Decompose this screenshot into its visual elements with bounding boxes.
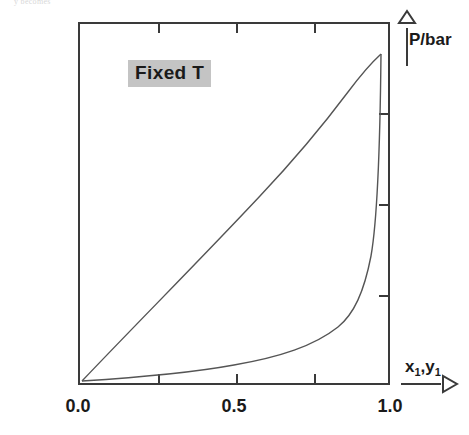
bubble-point-curve bbox=[82, 54, 381, 381]
x-tick-label-1: 0.5 bbox=[221, 396, 246, 417]
scan-artifact-text: y becomes bbox=[14, 0, 51, 6]
pxy-phase-diagram-figure: y becomes Fixed T 0.0 0.5 1.0 P/bar x1, bbox=[0, 0, 469, 435]
plot-frame bbox=[78, 22, 390, 385]
x-axis-arrow-icon bbox=[399, 373, 461, 397]
y-axis-title: P/bar bbox=[409, 30, 452, 50]
dew-point-curve bbox=[82, 54, 381, 381]
x-tick-label-2: 1.0 bbox=[377, 396, 402, 417]
x-tick-label-0: 0.0 bbox=[65, 396, 90, 417]
fixed-t-annotation: Fixed T bbox=[128, 60, 211, 87]
curves-layer bbox=[80, 24, 388, 383]
